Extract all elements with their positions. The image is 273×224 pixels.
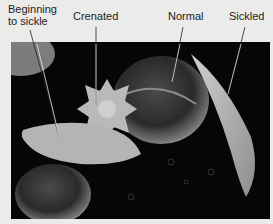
leader-beginning-to-sickle [30,30,60,140]
leader-lines [0,0,273,224]
